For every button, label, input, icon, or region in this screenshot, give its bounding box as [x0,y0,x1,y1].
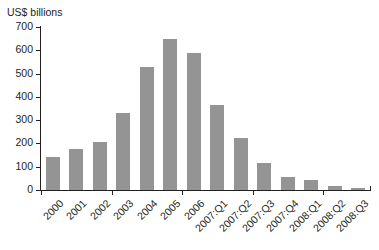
bar [187,53,201,190]
value-axis-tick-label: 200 [0,136,33,148]
bar [234,138,248,190]
category-axis-tick [253,191,254,195]
category-axis-tick [323,191,324,195]
value-axis-tick-label: 100 [0,160,33,172]
bar-chart-plot-area: 0100200300400500600700 20002001200220032… [41,27,370,190]
bar [328,186,342,190]
bar [93,142,107,190]
bar [210,105,224,190]
bar [351,188,365,190]
value-axis-tick [36,50,41,51]
axis-right-end-tick [370,186,371,191]
value-axis-tick-label: 0 [0,183,33,195]
value-axis-tick [36,27,41,28]
value-axis-tick-label: 400 [0,90,33,102]
value-axis-tick-label: 500 [0,67,33,79]
value-axis-tick [36,120,41,121]
bar [46,157,60,190]
category-axis-tick [112,191,113,195]
value-axis-tick [36,97,41,98]
bar [163,39,177,190]
value-axis-tick-label: 300 [0,113,33,125]
category-axis-tick [41,191,42,195]
value-axis-tick [36,143,41,144]
bar [281,177,295,190]
axis-unit-label: US$ billions [7,6,62,18]
value-axis-tick-label: 600 [0,43,33,55]
bar [257,163,271,190]
value-axis-tick [36,167,41,168]
bar [140,67,154,190]
bar [116,113,130,190]
chart-screenshot: US$ billions 0100200300400500600700 2000… [0,0,379,250]
category-axis-tick [182,191,183,195]
bar [304,180,318,190]
category-axis-line [40,190,371,191]
value-axis-tick [36,74,41,75]
clipped-figure-title [8,0,368,3]
value-axis-tick-label: 700 [0,20,33,32]
bar [69,149,83,190]
